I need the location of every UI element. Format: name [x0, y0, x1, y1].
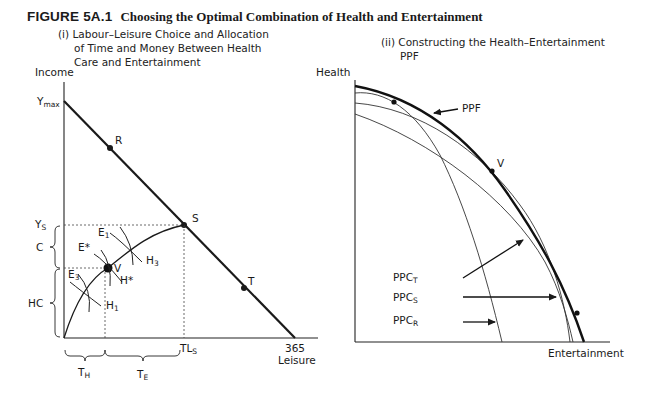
point-r-label: R — [115, 134, 122, 146]
ymax-label: Ymax — [36, 95, 60, 109]
e1-label: E1 — [98, 226, 110, 240]
budget-line — [64, 101, 295, 338]
right-panel: Health V PPF PPCT PPCS PPCR Entertainmen… — [316, 66, 624, 359]
bracket-hc — [50, 269, 60, 337]
indifference-curve-h3 — [120, 227, 133, 265]
c-label: C — [36, 241, 43, 253]
ppc-s-curve — [355, 103, 570, 342]
point-s-label: S — [192, 212, 199, 224]
point-v-right — [489, 168, 494, 173]
ppc-t-arrow — [463, 240, 523, 278]
ppf-tangent-point-top — [391, 99, 396, 104]
ppc-r-curve — [355, 93, 502, 342]
point-v-left-label: V — [114, 262, 122, 274]
figure-canvas: Income Ymax R S T YS V E* H* E1 H3 — [0, 0, 653, 405]
ys-label: YS — [34, 218, 46, 232]
point-t-label: T — [247, 275, 255, 287]
bracket-c — [50, 226, 60, 268]
e3-label: E3 — [68, 268, 80, 282]
ppf-label: PPF — [462, 102, 481, 114]
y-axis-label-income: Income — [35, 66, 74, 78]
x-axis-label-entertainment: Entertainment — [548, 347, 624, 359]
x-axis-end-365: 365 — [285, 342, 305, 354]
hc-label: HC — [28, 297, 43, 309]
h-star-label: H* — [120, 274, 133, 286]
ppf-tangent-point-bottom — [574, 310, 579, 315]
bracket-te — [105, 350, 180, 361]
point-r — [107, 145, 113, 151]
h3-label: H3 — [146, 254, 159, 268]
ppf-arrow — [434, 109, 458, 113]
y-axis-label-health: Health — [316, 66, 350, 78]
x-axis-label-leisure: Leisure — [278, 354, 316, 366]
ppc-t-curve — [355, 114, 573, 342]
te-label: TE — [136, 368, 148, 382]
left-panel: Income Ymax R S T YS V E* H* E1 H3 — [28, 66, 318, 382]
point-t — [241, 285, 247, 291]
ppc-t-label: PPCT — [393, 271, 418, 285]
ppf-curve — [355, 86, 584, 342]
tls-label: TLS — [179, 342, 197, 356]
th-label: TH — [77, 366, 90, 380]
point-v-right-label: V — [497, 157, 505, 169]
e-star-label: E* — [78, 241, 90, 253]
bracket-th — [65, 350, 105, 361]
ppc-s-label: PPCS — [393, 291, 418, 305]
h1-label: H1 — [106, 299, 119, 313]
ppc-r-label: PPCR — [393, 314, 418, 328]
